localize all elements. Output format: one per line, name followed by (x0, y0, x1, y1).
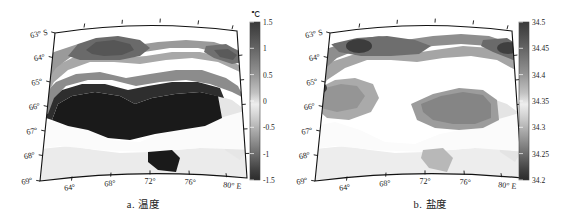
colorbar-tick-label: 34.3 (532, 123, 545, 132)
lon-label: 80° E (498, 180, 517, 191)
colorbar-tick-label: -1 (263, 150, 269, 159)
colorbar-unit-label-temperature: ℃ (251, 10, 260, 19)
lat-label: 66° (303, 101, 316, 112)
colorbar-tick-label: 0.5 (263, 71, 273, 80)
map-svg-temperature: 63° S 64° 65° 66° 67° 68° 69° 64° 68° 72… (0, 0, 286, 196)
lat-label: 63° S (304, 28, 323, 40)
panel-caption-temperature: a. 温度 (0, 196, 286, 211)
lat-label: 65° (306, 77, 319, 88)
colorbar-tick-label: 0 (263, 97, 267, 106)
lat-label: 68° (298, 150, 311, 161)
map-salinity: 63° S 64° 65° 66° 67° 68° 69° 64° 68° 72… (287, 0, 573, 196)
colorbar-tick-label: 34.4 (532, 71, 545, 80)
contour-spot-salinity-max-east (497, 42, 519, 54)
lat-label: 66° (28, 101, 41, 112)
lat-label: 69° (296, 176, 309, 187)
lon-label: 68° (379, 179, 391, 189)
lat-label: 67° (26, 126, 39, 137)
colorbar-labels-salinity: 34.5 34.45 34.4 34.35 34.3 34.25 34.2 (532, 18, 549, 185)
colorbar-tick-label: 34.5 (532, 18, 545, 27)
lon-label: 72° (144, 177, 155, 186)
contour-field-temperature (30, 15, 260, 192)
colorbar-tick-label: 34.35 (532, 97, 549, 106)
lon-label: 64° (64, 182, 76, 192)
longitude-labels-temperature: 64° 68° 72° 76° 80° E (64, 177, 242, 193)
lat-label: 68° (23, 150, 36, 161)
colorbar-tick-label: -1.5 (263, 176, 275, 185)
lon-label: 76° (184, 177, 196, 187)
colorbar-tick-label: 34.2 (532, 176, 545, 185)
lat-label: 64° (308, 52, 321, 63)
lon-label: 64° (339, 182, 351, 192)
lon-label: 76° (459, 177, 471, 187)
caption-text-salinity: b. 盐度 (414, 199, 447, 210)
lon-label: 68° (104, 179, 116, 189)
lat-label: 69° (21, 176, 34, 187)
contour-field-salinity (305, 15, 535, 192)
colorbar-tick-label: 34.45 (532, 44, 549, 53)
map-svg-salinity: 63° S 64° 65° 66° 67° 68° 69° 64° 68° 72… (287, 0, 573, 196)
lat-label: 67° (301, 126, 314, 137)
lat-label: 63° S (29, 28, 48, 40)
panel-salinity: 63° S 64° 65° 66° 67° 68° 69° 64° 68° 72… (287, 0, 573, 223)
map-temperature: 63° S 64° 65° 66° 67° 68° 69° 64° 68° 72… (0, 0, 286, 196)
colorbar-tick-label: 34.25 (532, 150, 549, 159)
lon-label: 72° (419, 177, 430, 186)
caption-text-temperature: a. 温度 (127, 199, 159, 210)
lat-label: 65° (31, 77, 44, 88)
figure-container: 63° S 64° 65° 66° 67° 68° 69° 64° 68° 72… (0, 0, 573, 223)
longitude-labels-salinity: 64° 68° 72° 76° 80° E (339, 177, 517, 193)
panel-temperature: 63° S 64° 65° 66° 67° 68° 69° 64° 68° 72… (0, 0, 286, 223)
colorbar-labels-temperature: 1.5 1 0.5 0 -0.5 -1 -1.5 (263, 18, 275, 185)
colorbar-tick-label: 1.5 (263, 18, 273, 27)
contour-spot-salinity-max-a (346, 39, 372, 53)
lat-label: 64° (33, 52, 46, 63)
panel-caption-salinity: b. 盐度 (287, 196, 573, 211)
colorbar-tick-label: -0.5 (263, 123, 275, 132)
colorbar-tick-label: 1 (263, 44, 267, 53)
lon-label: 80° E (223, 180, 242, 191)
